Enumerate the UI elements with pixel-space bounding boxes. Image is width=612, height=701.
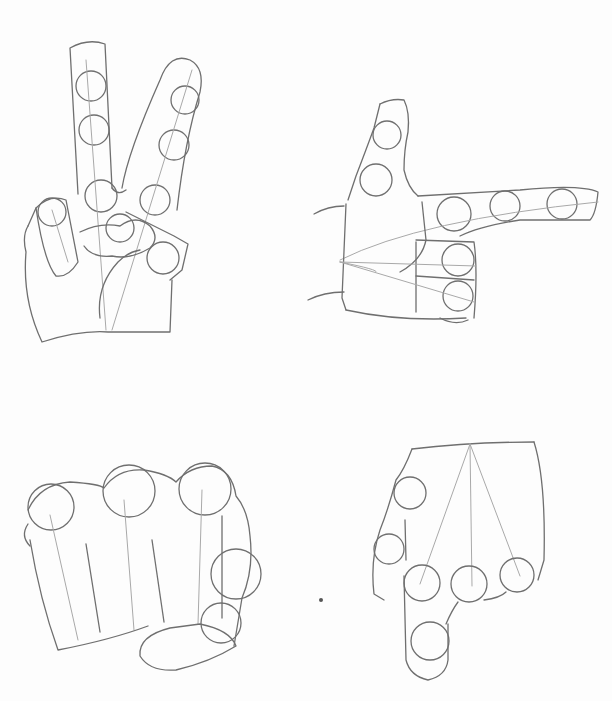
sketch-canvas bbox=[0, 0, 612, 701]
sketch-sheet: Hand gesture construction sketches bbox=[0, 0, 612, 701]
pencil-dot bbox=[319, 598, 323, 602]
sketch-fist bbox=[24, 463, 261, 670]
sketch-peace-sign bbox=[24, 42, 201, 342]
sketch-pointing-down bbox=[373, 442, 544, 680]
sketch-finger-gun bbox=[308, 100, 598, 323]
